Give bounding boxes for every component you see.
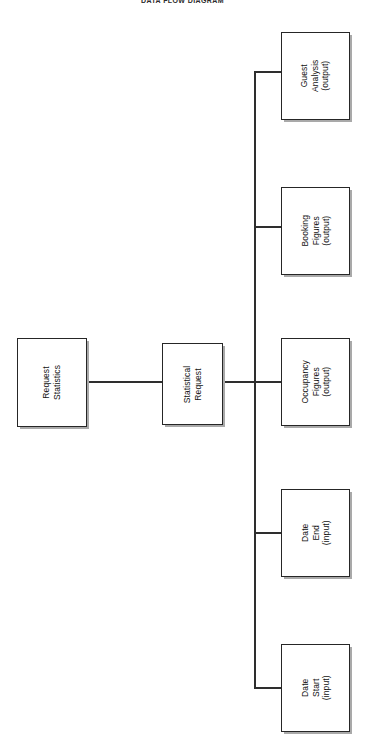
- node-request-statistics-line2: Statistics: [52, 365, 63, 400]
- node-date-start-line1: Date: [300, 676, 311, 701]
- node-booking-figures-line3: (output): [321, 215, 332, 246]
- node-date-end-inner: Date End (input): [282, 490, 349, 576]
- connector-spine-to-guest-analysis: [254, 71, 282, 73]
- node-statistical-request-inner: Statistical Request: [163, 344, 222, 424]
- node-statistical-request-line2: Request: [192, 365, 203, 402]
- node-booking-figures-line1: Booking: [300, 215, 311, 246]
- connector-spine-to-date-start: [254, 687, 282, 689]
- node-request-statistics-line1: Request: [41, 365, 52, 400]
- node-booking-figures-label: Booking Figures (output): [300, 215, 332, 246]
- node-occupancy-figures-line3: (output): [321, 360, 332, 403]
- connector-source-to-process: [86, 381, 163, 383]
- page-title: DATA FLOW DIAGRAM: [0, 0, 365, 5]
- connector-process-to-spine: [222, 381, 256, 383]
- node-guest-analysis-inner: Guest Analysis (output): [282, 33, 349, 119]
- node-statistical-request[interactable]: Statistical Request: [162, 343, 223, 425]
- node-date-end-line2: End: [310, 521, 321, 546]
- node-statistical-request-line1: Statistical: [182, 365, 193, 402]
- node-date-end[interactable]: Date End (input): [281, 489, 350, 577]
- node-occupancy-figures-line1: Occupancy: [300, 360, 311, 403]
- node-request-statistics-label: Request Statistics: [41, 365, 62, 400]
- connector-spine-to-date-end: [254, 532, 282, 534]
- node-guest-analysis-line1: Guest: [300, 60, 311, 92]
- node-occupancy-figures-inner: Occupancy Figures (output): [282, 339, 349, 425]
- node-statistical-request-label: Statistical Request: [182, 365, 203, 402]
- diagram-canvas: DATA FLOW DIAGRAM Request Statistics Sta…: [0, 0, 365, 738]
- node-date-end-line1: Date: [300, 521, 311, 546]
- node-booking-figures-line2: Figures: [310, 215, 321, 246]
- node-request-statistics[interactable]: Request Statistics: [17, 338, 87, 427]
- node-date-start[interactable]: Date Start (input): [281, 644, 350, 732]
- node-date-end-label: Date End (input): [300, 521, 332, 546]
- node-booking-figures-inner: Booking Figures (output): [282, 188, 349, 274]
- connector-spine-to-booking-figures: [254, 226, 282, 228]
- node-guest-analysis[interactable]: Guest Analysis (output): [281, 32, 350, 120]
- node-guest-analysis-line2: Analysis: [310, 60, 321, 92]
- node-request-statistics-inner: Request Statistics: [18, 339, 86, 426]
- node-occupancy-figures-label: Occupancy Figures (output): [300, 360, 332, 403]
- node-date-start-label: Date Start (input): [300, 676, 332, 701]
- node-date-start-line3: (input): [321, 676, 332, 701]
- node-date-start-inner: Date Start (input): [282, 645, 349, 731]
- node-occupancy-figures-line2: Figures: [310, 360, 321, 403]
- node-date-end-line3: (input): [321, 521, 332, 546]
- connector-spine: [254, 71, 256, 688]
- node-occupancy-figures[interactable]: Occupancy Figures (output): [281, 338, 350, 426]
- node-guest-analysis-line3: (output): [321, 60, 332, 92]
- node-date-start-line2: Start: [310, 676, 321, 701]
- node-booking-figures[interactable]: Booking Figures (output): [281, 187, 350, 275]
- connector-spine-to-occupancy-figures: [254, 381, 282, 383]
- node-guest-analysis-label: Guest Analysis (output): [300, 60, 332, 92]
